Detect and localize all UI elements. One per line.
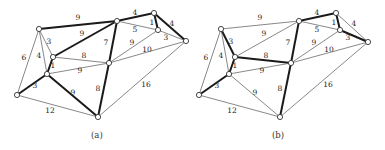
edge-weight-label: 10 <box>324 45 334 54</box>
node-K <box>183 38 188 43</box>
edge-weight-label: 9 <box>80 29 85 38</box>
edge-weight-label: 9 <box>130 38 135 47</box>
node-H <box>296 18 301 23</box>
caption-b: (b) <box>272 130 284 140</box>
edge-weight-label: 3 <box>215 81 220 90</box>
edge-weight-label: 6 <box>204 53 209 62</box>
edge-weight-label: 4 <box>170 19 175 28</box>
graph-figure-canvas: 963498193912879101645143 963498193912879… <box>0 0 385 150</box>
edge-weight-label: 3 <box>346 33 351 42</box>
node-H <box>114 18 119 23</box>
node-A <box>218 26 223 31</box>
edge-weight-label: 9 <box>312 38 317 47</box>
edge-weight-label: 4 <box>37 51 42 60</box>
edge-weight-label: 4 <box>219 51 224 60</box>
edge-weight-label: 3 <box>47 37 52 46</box>
edge-weight-label: 7 <box>104 38 109 47</box>
edge-weight-label: 9 <box>253 88 258 97</box>
edge-H-F <box>291 21 299 63</box>
caption-a: (a) <box>91 130 103 140</box>
edge-weight-label: 9 <box>71 88 76 97</box>
node-D <box>226 71 231 76</box>
edge-weight-label: 4 <box>352 19 357 28</box>
node-C <box>50 54 55 59</box>
graph-a: 963498193912879101645143 <box>14 8 188 120</box>
node-F <box>288 60 293 65</box>
edge-weight-label: 8 <box>82 51 87 60</box>
edge-weight-label: 12 <box>45 106 55 115</box>
node-C <box>232 54 237 59</box>
node-E <box>196 92 201 97</box>
edge-weight-label: 6 <box>22 53 27 62</box>
edge-weight-label: 16 <box>141 80 151 89</box>
edge-weight-label: 3 <box>164 33 169 42</box>
node-A <box>36 26 41 31</box>
edge-weight-label: 9 <box>76 13 81 22</box>
edge-weight-label: 5 <box>315 25 320 34</box>
edge-weight-label: 9 <box>258 13 263 22</box>
edge-weight-label: 7 <box>286 38 291 47</box>
edge-J-K <box>158 30 186 41</box>
node-F <box>106 60 111 65</box>
edge-weight-label: 9 <box>260 66 265 75</box>
graph-b: 963498193912879101645143 <box>196 8 370 120</box>
edge-weight-label: 1 <box>51 61 56 70</box>
node-I <box>333 10 338 15</box>
node-J <box>155 27 160 32</box>
node-D <box>44 71 49 76</box>
edge-weight-label: 3 <box>33 81 38 90</box>
node-J <box>337 27 342 32</box>
edge-weight-label: 1 <box>150 18 155 27</box>
edge-weight-label: 3 <box>229 37 234 46</box>
edge-weight-label: 9 <box>78 66 83 75</box>
edge-weight-label: 4 <box>133 8 138 17</box>
node-G <box>95 114 100 119</box>
edge-weight-label: 8 <box>264 51 269 60</box>
edge-weight-label: 1 <box>233 61 238 70</box>
edge-weight-label: 8 <box>96 84 101 93</box>
edge-weight-label: 12 <box>227 106 237 115</box>
node-G <box>277 114 282 119</box>
edge-weight-label: 16 <box>323 80 333 89</box>
edge-H-F <box>109 21 117 63</box>
edge-weight-label: 5 <box>133 25 138 34</box>
edge-weight-label: 10 <box>142 45 152 54</box>
edge-weight-label: 1 <box>332 18 337 27</box>
node-E <box>14 92 19 97</box>
edge-E-G <box>199 95 280 117</box>
node-K <box>365 39 370 44</box>
edge-weight-label: 8 <box>278 84 283 93</box>
edge-J-K <box>340 30 368 42</box>
node-I <box>151 10 156 15</box>
edge-weight-label: 4 <box>315 8 320 17</box>
edge-weight-label: 9 <box>262 29 267 38</box>
